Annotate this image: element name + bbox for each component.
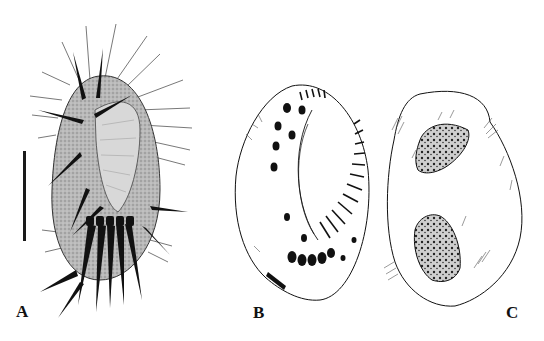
panel-b-body [235,85,369,300]
panel-label-a: A [16,303,28,320]
scale-bar [23,151,26,241]
panel-a-cirral-bases [86,216,134,226]
panel-label-c: C [506,304,518,321]
panel-a-drawing [30,24,192,318]
ciliate-figure: A B C [0,0,544,341]
panel-c-drawing [384,91,522,306]
panel-b-drawing [235,85,369,300]
figure-drawings [0,0,544,341]
panel-label-b: B [253,304,264,321]
